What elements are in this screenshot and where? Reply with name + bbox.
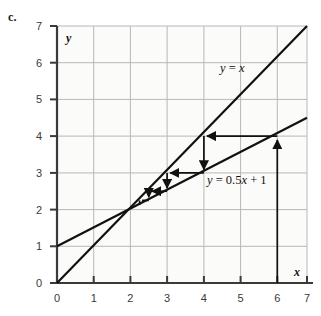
x-tick-label-4: 4 bbox=[201, 292, 207, 304]
cobweb-plot: 7 6 5 4 3 2 1 0 0 1 2 3 4 5 6 7 y x bbox=[0, 0, 321, 316]
label-y-equals-x-eq: = bbox=[226, 61, 239, 75]
y-tick-label-7: 7 bbox=[36, 20, 42, 32]
x-axis-label: x bbox=[293, 265, 300, 279]
y-tick-label-5: 5 bbox=[36, 93, 42, 105]
y-tick-label-4: 4 bbox=[36, 130, 42, 142]
label-y-equals-x-var-x: x bbox=[238, 61, 245, 75]
label-line-y-equals-half-x-plus-1: y = 0.5x + 1 bbox=[205, 173, 267, 187]
x-tick-label-7: 7 bbox=[304, 292, 310, 304]
y-tick-label-6: 6 bbox=[36, 57, 42, 69]
x-tick-label-6: 6 bbox=[274, 292, 280, 304]
x-tick-label-5: 5 bbox=[238, 292, 244, 304]
y-tick-label-1: 1 bbox=[36, 240, 42, 252]
y-tick-label-3: 3 bbox=[36, 167, 42, 179]
x-tick-label-0: 0 bbox=[54, 292, 60, 304]
label-line-y-equals-x: y = x bbox=[218, 61, 245, 75]
y-tick-label-2: 2 bbox=[36, 204, 42, 216]
y-axis-label: y bbox=[64, 31, 72, 45]
y-tick-label-0: 0 bbox=[36, 277, 42, 289]
x-tick-label-1: 1 bbox=[91, 292, 97, 304]
x-tick-label-2: 2 bbox=[127, 292, 133, 304]
label-half-eq: = 0.5 bbox=[213, 173, 242, 187]
label-half-plus-one: + 1 bbox=[247, 173, 267, 187]
figure-container: c. bbox=[0, 0, 321, 316]
x-tick-label-3: 3 bbox=[164, 292, 170, 304]
